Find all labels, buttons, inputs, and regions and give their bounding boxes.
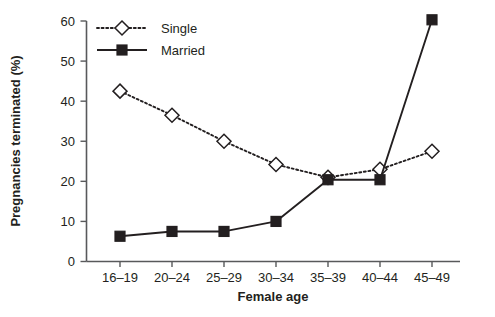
y-tick-label: 60 (61, 14, 75, 29)
data-point-married (375, 175, 385, 185)
x-tick-label: 30–34 (258, 270, 294, 285)
y-tick-label: 40 (61, 94, 75, 109)
legend-label-single: Single (161, 21, 197, 36)
y-tick-label: 30 (61, 134, 75, 149)
x-tick-label: 40–44 (362, 270, 398, 285)
data-point-married (271, 216, 281, 226)
x-tick-label: 25–29 (206, 270, 242, 285)
chart-figure: 0102030405060 16–1920–2425–2930–3435–394… (0, 0, 495, 317)
x-tick-label: 35–39 (310, 270, 346, 285)
data-point-married (427, 15, 437, 25)
data-point-married (167, 226, 177, 236)
x-tick-label: 20–24 (154, 270, 190, 285)
data-point-married (219, 226, 229, 236)
line-chart: 0102030405060 16–1920–2425–2930–3435–394… (0, 0, 495, 317)
y-tick-label: 0 (68, 254, 75, 269)
y-axis-title: Pregnancies terminated (%) (8, 55, 23, 226)
y-tick-label: 50 (61, 54, 75, 69)
data-point-married (323, 175, 333, 185)
y-tick-label: 20 (61, 174, 75, 189)
data-point-married (115, 231, 125, 241)
x-tick-label: 45–49 (414, 270, 450, 285)
legend-label-married: Married (161, 43, 205, 58)
legend-marker-married (117, 45, 127, 55)
x-tick-label: 16–19 (102, 270, 138, 285)
x-axis-title: Female age (238, 289, 309, 304)
y-tick-label: 10 (61, 214, 75, 229)
